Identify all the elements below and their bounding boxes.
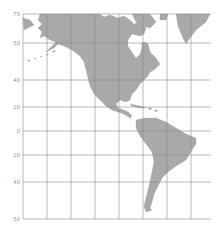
aleutian-islands-shape bbox=[28, 50, 55, 61]
latitude-label: 70 bbox=[0, 11, 20, 17]
caribbean-islands-shape bbox=[130, 104, 158, 112]
north-america-shape bbox=[23, 14, 160, 118]
latitude-label: 40 bbox=[0, 179, 20, 185]
latitude-label: 60 bbox=[0, 216, 20, 222]
latitude-label: 20 bbox=[0, 152, 20, 158]
greenland-shape bbox=[176, 14, 210, 44]
latitude-label: 0 bbox=[0, 128, 20, 134]
latitude-label: 60 bbox=[0, 40, 20, 46]
map-canvas bbox=[0, 0, 223, 234]
latitude-label: 40 bbox=[0, 77, 20, 83]
latitude-label: 20 bbox=[0, 104, 20, 110]
south-america-shape bbox=[136, 118, 196, 212]
